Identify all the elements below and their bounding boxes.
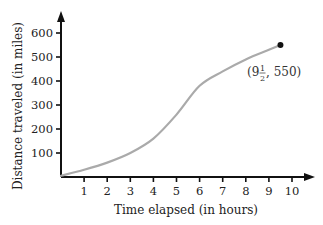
axes [57,11,315,181]
endpoint-label: (9 1 2 , 550) [247,64,301,83]
distance-time-chart: 100200300400500600 12345678910 (9 1 2 , … [0,0,323,225]
x-axis-arrow-icon [304,173,315,181]
x-tick-label: 5 [173,184,180,198]
y-tick-label: 100 [31,146,53,160]
y-tick-label: 600 [31,26,53,40]
y-axis-title: Distance traveled (in miles) [11,22,25,190]
y-tick-label: 400 [31,74,53,88]
x-tick-label: 8 [242,184,249,198]
y-ticks: 100200300400500600 [31,26,61,160]
endpoint-label-frac-den: 2 [260,74,265,83]
endpoint-label-rest: , 550) [266,65,301,79]
y-tick-label: 300 [31,98,53,112]
x-tick-label: 7 [219,184,226,198]
x-tick-label: 3 [127,184,134,198]
x-tick-label: 9 [265,184,272,198]
x-tick-label: 10 [285,184,300,198]
endpoint-marker [277,42,283,48]
y-axis-arrow-icon [57,11,65,22]
endpoint-label-whole: (9 [247,65,259,79]
x-axis-title: Time elapsed (in hours) [114,203,258,217]
y-tick-label: 200 [31,122,53,136]
x-tick-label: 4 [150,184,157,198]
x-tick-label: 2 [104,184,111,198]
endpoint-label-frac-num: 1 [260,64,265,73]
y-tick-label: 500 [31,50,53,64]
x-ticks: 12345678910 [80,177,299,198]
x-tick-label: 1 [80,184,87,198]
x-tick-label: 6 [196,184,203,198]
